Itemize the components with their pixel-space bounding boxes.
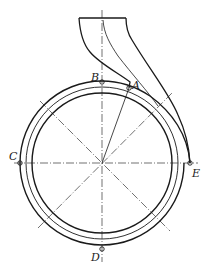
diagonal-centerline-2 [38, 92, 173, 228]
label-c: C [9, 150, 18, 163]
centerlines [14, 10, 198, 262]
label-b: B [90, 71, 99, 84]
label-e: E [191, 167, 200, 180]
volute-diagram: A B C D E [0, 0, 207, 271]
radial-line-a [102, 88, 129, 163]
label-a: A [131, 79, 140, 92]
diagonal-centerline-1 [40, 101, 170, 231]
label-d: D [90, 251, 100, 264]
